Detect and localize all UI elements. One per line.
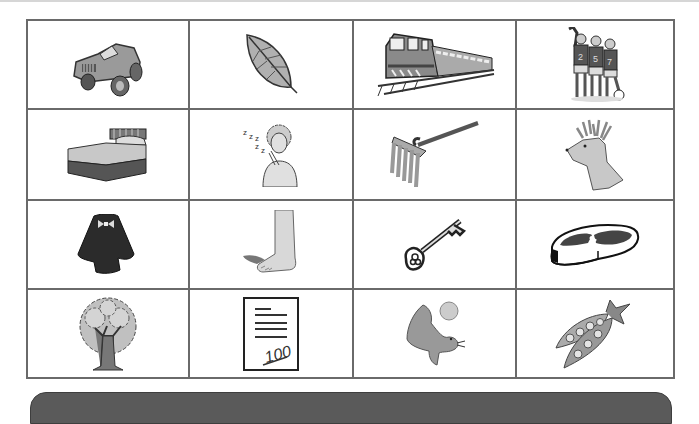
leaf-icon — [241, 33, 301, 97]
seal-icon — [403, 299, 467, 369]
svg-text:2: 2 — [578, 52, 583, 62]
grid-cell-train: train — [354, 21, 517, 110]
tree-icon — [73, 296, 143, 372]
svg-text:z: z — [261, 146, 265, 155]
grid-cell-team: team 2 5 7 — [517, 21, 673, 110]
cape-icon — [76, 214, 140, 276]
grid-cell-cape: cape — [28, 201, 190, 290]
picture-grid: jeep leaf train — [26, 19, 675, 379]
grid-cell-jeep: jeep — [28, 21, 190, 110]
svg-text:z: z — [249, 132, 253, 141]
top-divider — [0, 0, 699, 2]
key-icon — [402, 217, 468, 273]
svg-text:5: 5 — [593, 54, 598, 64]
meat-icon — [548, 221, 642, 269]
svg-text:z: z — [243, 128, 247, 137]
rake-icon — [388, 121, 482, 189]
jeep-icon — [68, 32, 148, 98]
bed-icon — [66, 127, 150, 183]
test-paper-icon: 100 — [243, 297, 299, 371]
grid-cell-key: key — [354, 201, 517, 290]
bottom-panel-edge — [30, 392, 672, 424]
grid-cell-meat: meat — [517, 201, 673, 290]
svg-text:7: 7 — [607, 57, 612, 67]
foot-icon — [241, 210, 301, 280]
peas-icon — [554, 298, 636, 370]
grid-cell-bed: bed — [28, 110, 190, 201]
sleep-icon: z z z z z — [241, 123, 301, 187]
grid-cell-test: test 100 — [190, 290, 354, 377]
team-icon: 2 5 7 — [565, 27, 625, 103]
grid-cell-foot: foot — [190, 201, 354, 290]
grid-cell-tree: tree — [28, 290, 190, 377]
grid-cell-sleep: sleep z z z z z — [190, 110, 354, 201]
grid-cell-seal: seal — [354, 290, 517, 377]
grid-cell-leaf: leaf — [190, 21, 354, 110]
grid-cell-rake: rake — [354, 110, 517, 201]
grid-cell-deer: deer — [517, 110, 673, 201]
grid-cell-peas: peas — [517, 290, 673, 377]
deer-icon — [563, 118, 627, 192]
train-icon — [374, 30, 496, 100]
svg-text:z: z — [255, 142, 259, 151]
